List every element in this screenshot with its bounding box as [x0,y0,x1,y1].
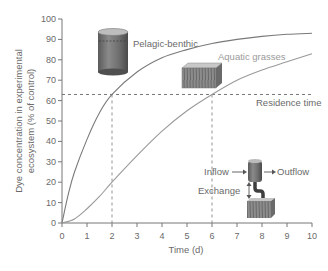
x-tick-label: 7 [234,231,239,241]
chart-canvas: 0102030405060708090100 012345678910 Time… [0,0,328,271]
inflow-arrow-icon [232,170,247,175]
outflow-label: Outflow [277,166,309,177]
x-tick-label: 5 [184,231,189,241]
x-tick-label: 8 [259,231,264,241]
flow-diagram: Inflow Outflow Exchange [198,159,309,218]
residence-time-label: Residence time [256,97,321,108]
y-tick-label: 50 [46,116,56,126]
exchange-label: Exchange [198,185,240,196]
small-cylinder-icon [248,159,262,182]
x-tick-label: 9 [284,231,289,241]
x-tick-label: 3 [134,231,139,241]
pelagic-benthic-cylinder-icon [98,29,128,76]
y-tick-label: 60 [46,96,56,106]
y-axis-title: Dye concentration in experimental ecosys… [13,49,36,193]
y-axis-title-line1: Dye concentration in experimental [13,49,24,193]
aquatic-grasses-box-icon [182,63,222,88]
y-tick-label: 80 [46,55,56,65]
pipe-icon [255,182,263,200]
x-ticks: 012345678910 [59,223,317,241]
x-tick-label: 4 [159,231,164,241]
y-tick-label: 100 [41,14,56,24]
x-tick-label: 2 [109,231,114,241]
y-axis-title-line2: ecosystem (% of control) [25,69,36,174]
x-tick-label: 1 [84,231,89,241]
x-tick-label: 10 [307,231,317,241]
x-axis-title: Time (d) [168,244,203,255]
pelagic-benthic-label: Pelagic-benthic [133,38,198,49]
exchange-arrow-icon [247,182,252,199]
x-tick-label: 0 [59,231,64,241]
inflow-label: Inflow [204,166,229,177]
x-tick-label: 6 [209,231,214,241]
y-tick-label: 90 [46,34,56,44]
aquatic-grasses-label: Aquatic grasses [218,51,286,62]
y-tick-label: 40 [46,136,56,146]
y-tick-label: 0 [51,218,56,228]
y-tick-label: 30 [46,157,56,167]
dye-concentration-chart: 0102030405060708090100 012345678910 Time… [0,0,328,271]
outflow-arrow-icon [264,170,276,175]
y-tick-label: 10 [46,198,56,208]
y-tick-label: 20 [46,177,56,187]
y-tick-label: 70 [46,75,56,85]
small-grass-box-icon [247,198,275,218]
y-ticks: 0102030405060708090100 [41,14,62,228]
